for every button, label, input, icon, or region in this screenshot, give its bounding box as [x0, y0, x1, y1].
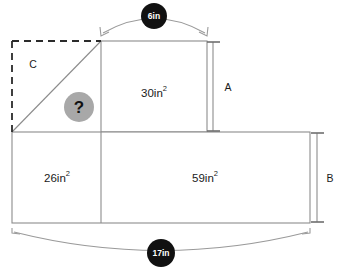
triangle-c-label: C — [29, 58, 37, 70]
right-area-unit: in — [205, 172, 214, 184]
dimension-a-label: A — [224, 81, 231, 93]
bottom-dimension-badge-label: 17in — [152, 248, 169, 258]
left-area-exponent: 2 — [66, 169, 70, 178]
right-area-value: 59 — [192, 172, 205, 184]
geometry-diagram: C 30in2 26in2 59in2 ? A B 6in 17in — [0, 0, 337, 274]
middle-area-value: 30 — [141, 87, 154, 99]
left-area-value: 26 — [44, 172, 57, 184]
top-arc-arrowhead-right — [199, 27, 208, 36]
middle-area-exponent: 2 — [163, 84, 167, 93]
top-dimension-badge-label: 6in — [148, 11, 160, 21]
left-area-unit: in — [57, 172, 66, 184]
unknown-marker-glyph: ? — [74, 98, 84, 117]
middle-area-unit: in — [154, 87, 163, 99]
dimension-b-label: B — [326, 172, 333, 184]
diagram-canvas: C 30in2 26in2 59in2 ? A B 6in 17in — [0, 0, 337, 274]
right-area-exponent: 2 — [214, 169, 218, 178]
top-arc-arrowhead-left — [100, 27, 109, 36]
